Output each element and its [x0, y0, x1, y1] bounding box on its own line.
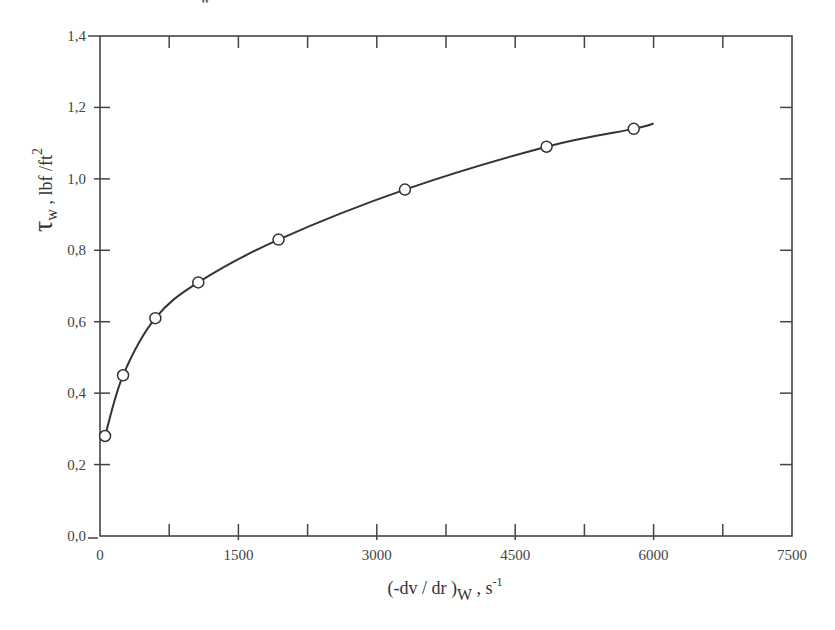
x-tick-label: 3000 [362, 547, 392, 563]
y-tick-label: 0,0 [67, 528, 86, 544]
x-tick-label: 0 [96, 547, 104, 563]
x-axis-title: (-dv / dr )W , s-1 [387, 575, 502, 603]
data-point-marker [541, 141, 552, 152]
x-tick-label: 1500 [223, 547, 253, 563]
fit-curve [105, 124, 654, 437]
y-tick-labels: 0,00,20,40,60,81,01,21,4 [67, 28, 86, 544]
y-tick-label: 1,0 [67, 171, 86, 187]
chart: 015003000450060007500 0,00,20,40,60,81,0… [0, 0, 835, 630]
x-tick-label: 7500 [777, 547, 807, 563]
data-point-marker [100, 431, 111, 442]
data-point-marker [273, 234, 284, 245]
plot-border [100, 36, 792, 536]
y-axis-title: τw , lbf /ft2 [27, 148, 60, 232]
data-point-marker [399, 184, 410, 195]
x-tick-label: 4500 [500, 547, 530, 563]
plot-frame [88, 36, 792, 538]
y-tick-label: 0,6 [67, 314, 86, 330]
x-tick-label: 6000 [639, 547, 669, 563]
data-point-marker [628, 123, 639, 134]
data-point-marker [150, 313, 161, 324]
y-tick-label: 0,8 [67, 242, 86, 258]
data-point-marker [193, 277, 204, 288]
y-tick-label: 1,2 [67, 99, 86, 115]
x-tick-labels: 015003000450060007500 [96, 547, 807, 563]
data-markers [100, 123, 640, 441]
y-tick-label: 0,2 [67, 457, 86, 473]
data-point-marker [118, 370, 129, 381]
y-tick-label: 1,4 [67, 28, 86, 44]
y-tick-label: 0,4 [67, 385, 86, 401]
